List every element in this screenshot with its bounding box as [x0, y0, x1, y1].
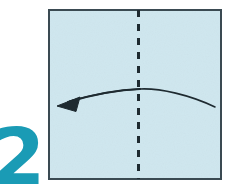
paper-texture-overlay — [50, 11, 220, 178]
origami-diagram-canvas: 2 — [0, 0, 231, 189]
step-number: 2 — [0, 118, 43, 189]
